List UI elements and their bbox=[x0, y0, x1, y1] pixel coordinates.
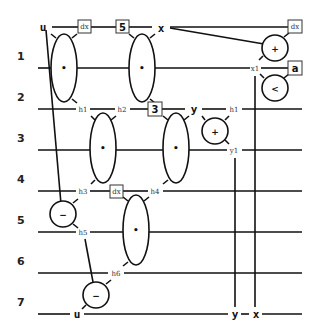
ellipse-node-2[interactable]: • bbox=[129, 34, 155, 103]
box-a[interactable]: a bbox=[288, 61, 302, 75]
multiply-op: • bbox=[173, 143, 179, 153]
multiply-op: • bbox=[139, 63, 145, 73]
minus-op: − bbox=[92, 291, 100, 301]
box-three[interactable]: 3 bbox=[148, 102, 162, 116]
svg-text:3: 3 bbox=[152, 104, 159, 115]
svg-text:dx: dx bbox=[80, 23, 88, 31]
circle-node-plus-top[interactable]: + bbox=[259, 33, 289, 61]
wire-label-h1: h1 bbox=[79, 106, 88, 114]
box-dx-mid[interactable]: dx bbox=[110, 185, 123, 198]
var-label-y-bottom: y bbox=[232, 308, 239, 321]
row-label-3: 3 bbox=[17, 132, 25, 145]
wire-label-h6: h6 bbox=[112, 270, 122, 278]
wire-label-h1-right: h1 bbox=[230, 106, 239, 114]
var-label-u-top: u bbox=[40, 21, 47, 34]
box-dx-top-left[interactable]: dx bbox=[78, 20, 91, 33]
wire-label-x1: x1 bbox=[251, 65, 259, 73]
svg-text:dx: dx bbox=[291, 23, 299, 31]
circle-node-minus-left[interactable]: − bbox=[50, 199, 78, 228]
circle-node-less[interactable]: < bbox=[260, 74, 289, 101]
wire-label-h3: h3 bbox=[79, 188, 88, 196]
less-than-op: < bbox=[271, 84, 279, 94]
svg-text:dx: dx bbox=[112, 188, 120, 196]
wire-label-y1: y1 bbox=[229, 147, 238, 155]
wire-label-h2: h2 bbox=[118, 106, 127, 114]
row-label-5: 5 bbox=[17, 214, 25, 227]
row-label-4: 4 bbox=[17, 173, 25, 186]
var-label-x-top: x bbox=[158, 22, 165, 35]
wire-label-h4: h4 bbox=[151, 188, 161, 196]
row-label-7: 7 bbox=[17, 296, 25, 309]
plus-op: + bbox=[211, 127, 219, 137]
var-label-u-bottom: u bbox=[74, 308, 81, 321]
ellipse-node-1[interactable]: • bbox=[51, 34, 77, 103]
row-labels: 1 2 3 4 5 6 7 bbox=[17, 50, 25, 309]
wiring-diagram: 1 2 3 4 5 6 7 bbox=[0, 0, 320, 336]
multiply-op: • bbox=[100, 143, 106, 153]
var-label-x-bottom: x bbox=[253, 308, 260, 321]
row-label-6: 6 bbox=[17, 255, 25, 268]
ellipse-node-5[interactable]: • bbox=[123, 195, 149, 266]
multiply-op: • bbox=[133, 225, 139, 235]
ellipse-node-3[interactable]: • bbox=[90, 113, 116, 184]
svg-text:a: a bbox=[292, 63, 299, 74]
wire-label-h5: h5 bbox=[79, 229, 88, 237]
circle-node-plus-mid[interactable]: + bbox=[202, 116, 229, 144]
var-label-y: y bbox=[191, 103, 198, 116]
row-label-1: 1 bbox=[17, 50, 25, 63]
circle-node-minus-bottom[interactable]: − bbox=[82, 280, 111, 309]
multiply-op: • bbox=[61, 63, 67, 73]
minus-op: − bbox=[59, 210, 67, 220]
row-label-2: 2 bbox=[17, 91, 25, 104]
svg-text:5: 5 bbox=[119, 22, 126, 33]
plus-op: + bbox=[271, 44, 279, 54]
ellipse-node-4[interactable]: • bbox=[163, 113, 189, 184]
box-five[interactable]: 5 bbox=[116, 20, 129, 33]
box-dx-top-right[interactable]: dx bbox=[288, 20, 302, 33]
